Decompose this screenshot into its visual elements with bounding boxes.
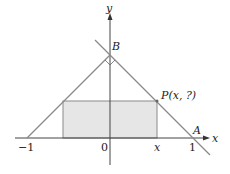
tick-neg-one: −1 — [18, 141, 34, 154]
point-b-label: B — [111, 40, 120, 53]
tick-one: 1 — [189, 141, 196, 154]
point-p — [156, 100, 159, 103]
diagram-svg: y x B P(x, ?) A −1 0 x 1 — [0, 0, 230, 174]
point-a-label: A — [192, 124, 201, 137]
x-axis-arrow-icon — [203, 136, 210, 141]
diagram: y x B P(x, ?) A −1 0 x 1 — [0, 0, 230, 174]
y-axis-label: y — [105, 2, 113, 15]
point-p-label: P(x, ?) — [160, 89, 196, 102]
tick-x: x — [154, 141, 161, 154]
x-axis-label: x — [212, 132, 219, 145]
tick-zero: 0 — [101, 141, 108, 154]
